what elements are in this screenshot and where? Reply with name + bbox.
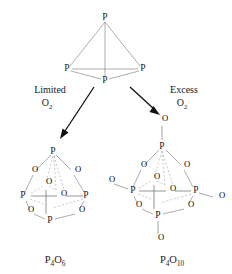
p4o10-atom-p-left: P bbox=[130, 185, 135, 195]
p4o6-atom-p-front: P bbox=[47, 215, 52, 225]
arrow-left-head bbox=[60, 129, 69, 140]
p4o6-bond-apex-o-upleft bbox=[36, 155, 51, 170]
formula-label-p4o10: P4O10 bbox=[160, 254, 185, 267]
atom-p-right: P bbox=[140, 63, 145, 73]
diagram-canvas: P P P P Limited O2 Excess O2 bbox=[0, 0, 232, 274]
p4o10-bond-oupright-pright bbox=[184, 170, 193, 187]
condition-left-o: O bbox=[42, 97, 49, 108]
p4o10-atom-p-apex: P bbox=[159, 141, 164, 151]
p4o6-atom-o-lower-right: O bbox=[79, 204, 85, 214]
condition-right-o: O bbox=[177, 97, 184, 108]
p4o6-atom-o-upper-left: O bbox=[32, 164, 38, 174]
atom-p-apex: P bbox=[102, 12, 107, 22]
p4o10-atom-o-lower-left: O bbox=[136, 199, 142, 209]
p4o10-atom-p-front: P bbox=[155, 210, 160, 220]
p4o6-bond-olowleft-pfront bbox=[34, 214, 45, 219]
phosphorus-oxidation-diagram: P P P P Limited O2 Excess O2 bbox=[0, 0, 232, 274]
arrow-left-shaft bbox=[65, 87, 94, 131]
bond-right-front bbox=[109, 71, 139, 79]
p4o10-atom-o-upper-right: O bbox=[184, 159, 190, 169]
p4o6-atom-o-back-center: O bbox=[46, 176, 52, 186]
condition-left-line1: Limited bbox=[34, 84, 66, 95]
atom-p-front: P bbox=[102, 75, 107, 85]
product-p4o6-structure: P O O O P O P O O P bbox=[20, 146, 88, 225]
p4o6-atom-o-upper-right: O bbox=[75, 164, 81, 174]
p4o10-atom-o-terminal-front: O bbox=[158, 232, 164, 242]
p4o10-bond-back-right bbox=[160, 194, 191, 203]
condition-left-line2: O2 bbox=[42, 97, 53, 109]
p4o6-bond-apex-o-upright bbox=[56, 155, 71, 170]
p4o10-bond-apex-o-upright bbox=[166, 150, 181, 165]
p4o10-bond-ocenter-back bbox=[157, 181, 165, 185]
p4o10-atom-o-upper-left: O bbox=[141, 159, 147, 169]
p4o10-atom-o-terminal-left: O bbox=[109, 174, 115, 184]
p4o6-bond-ocenter-pleft bbox=[30, 186, 43, 194]
arrow-right-shaft bbox=[130, 87, 154, 109]
p4o10-atom-o-back-center: O bbox=[154, 171, 160, 181]
p4o6-atom-p-apex: P bbox=[50, 146, 55, 156]
p4o10-atom-p-right: P bbox=[193, 185, 198, 195]
formula-label-p4o6: P4O6 bbox=[45, 254, 66, 267]
p4o10-atom-o-front-mid: O bbox=[170, 183, 176, 193]
p4o6-formula-sub2: 6 bbox=[62, 259, 66, 267]
reactant-tetrahedron: P P P P bbox=[64, 12, 145, 85]
bond-left-front bbox=[71, 71, 101, 79]
condition-right-line2: O2 bbox=[177, 97, 188, 109]
p4o6-atom-p-right: P bbox=[83, 190, 88, 200]
p4o10-bond-olowleft-pfront bbox=[142, 209, 153, 214]
condition-right-line1: Excess bbox=[170, 84, 198, 95]
p4o6-atom-p-left: P bbox=[20, 190, 25, 200]
p4o10-atom-o-lower-right: O bbox=[188, 199, 194, 209]
p4o10-atom-o-terminal-top: O bbox=[162, 113, 168, 123]
atom-p-left: P bbox=[64, 63, 69, 73]
p4o10-bond-ocenter-pleft bbox=[138, 181, 151, 189]
condition-label-left: Limited O2 bbox=[34, 84, 66, 109]
p4o10-bond-terminal-right bbox=[199, 193, 213, 197]
bond-apex-right bbox=[105, 22, 140, 66]
p4o10-bond-olowright-pfront bbox=[163, 209, 184, 214]
p4o6-bond-ocenter-back bbox=[49, 186, 56, 190]
arrow-right-head bbox=[150, 106, 161, 115]
p4o10-atom-o-terminal-right: O bbox=[219, 190, 225, 200]
p4o6-bond-olowright-pfront bbox=[55, 214, 75, 219]
product-p4o10-structure: O bbox=[109, 113, 225, 242]
condition-right-subscript: 2 bbox=[184, 102, 188, 109]
p4o6-atom-o-lower-left: O bbox=[28, 204, 34, 214]
condition-left-subscript: 2 bbox=[49, 102, 53, 109]
p4o6-atom-o-front-mid: O bbox=[61, 188, 67, 198]
bond-apex-left bbox=[70, 22, 105, 66]
p4o10-bond-terminal-left bbox=[114, 184, 128, 189]
condition-label-right: Excess O2 bbox=[170, 84, 198, 109]
p4o6-bond-oupleft-pleft bbox=[25, 175, 33, 192]
p4o10-formula-sub2: 10 bbox=[177, 259, 185, 267]
arrow-excess-o2 bbox=[130, 87, 160, 115]
